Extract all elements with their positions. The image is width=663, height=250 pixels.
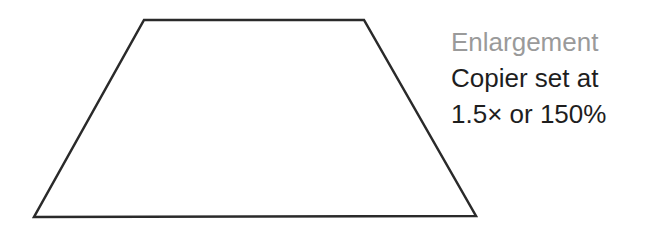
caption: Enlargement Copier set at 1.5× or 150%: [451, 24, 606, 132]
caption-line-1: Copier set at: [451, 60, 606, 96]
enlargement-diagram: Enlargement Copier set at 1.5× or 150%: [0, 0, 663, 250]
caption-title: Enlargement: [451, 24, 606, 60]
caption-line-2: 1.5× or 150%: [451, 96, 606, 132]
